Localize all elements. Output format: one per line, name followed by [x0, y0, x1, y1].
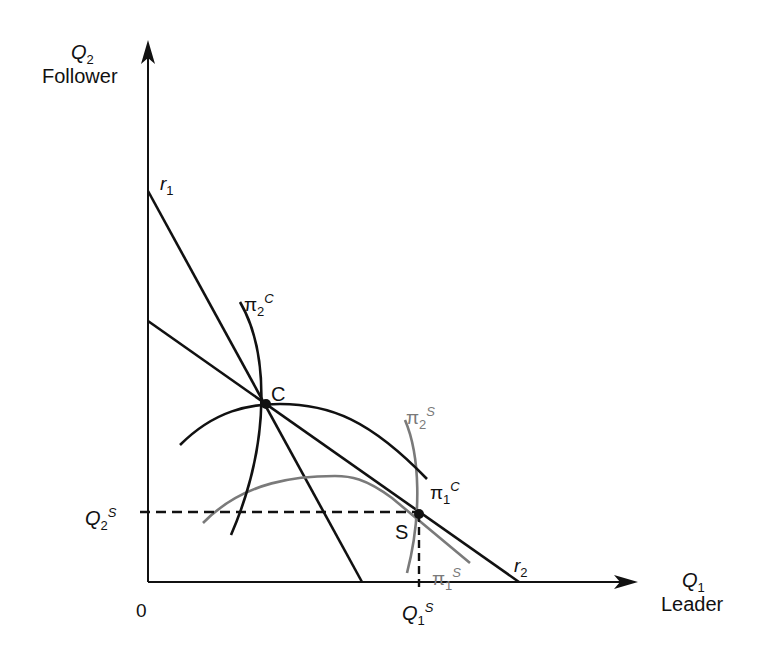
isoprofit-pi2-c: [231, 302, 261, 535]
pi2-c-label: π2C: [244, 292, 274, 318]
x-axis-label: Leader: [661, 594, 723, 614]
q1s-label: Q1S: [402, 601, 433, 627]
pi1-s-label: π1S: [432, 566, 461, 592]
x-axis-symbol: Q1: [682, 570, 705, 594]
y-axis-label: Follower: [42, 66, 118, 86]
point-s-label: S: [395, 522, 408, 542]
point-c-label: C: [271, 384, 285, 404]
isoprofit-pi2-s: [405, 420, 417, 573]
q2s-label: Q2S: [85, 506, 116, 532]
reaction-curve-r1: [148, 191, 362, 582]
reaction-curve-r2: [148, 321, 519, 582]
point-s: [414, 509, 424, 519]
r2-label: r2: [514, 556, 528, 579]
point-c: [261, 399, 271, 409]
y-axis-symbol: Q2: [71, 42, 94, 66]
isoprofit-pi1-c: [180, 404, 427, 479]
pi2-s-label: π2S: [406, 405, 435, 431]
pi1-c-label: π1C: [430, 480, 460, 506]
diagram-canvas: [0, 0, 764, 654]
r1-label: r1: [160, 174, 174, 197]
origin-label: 0: [136, 601, 147, 620]
